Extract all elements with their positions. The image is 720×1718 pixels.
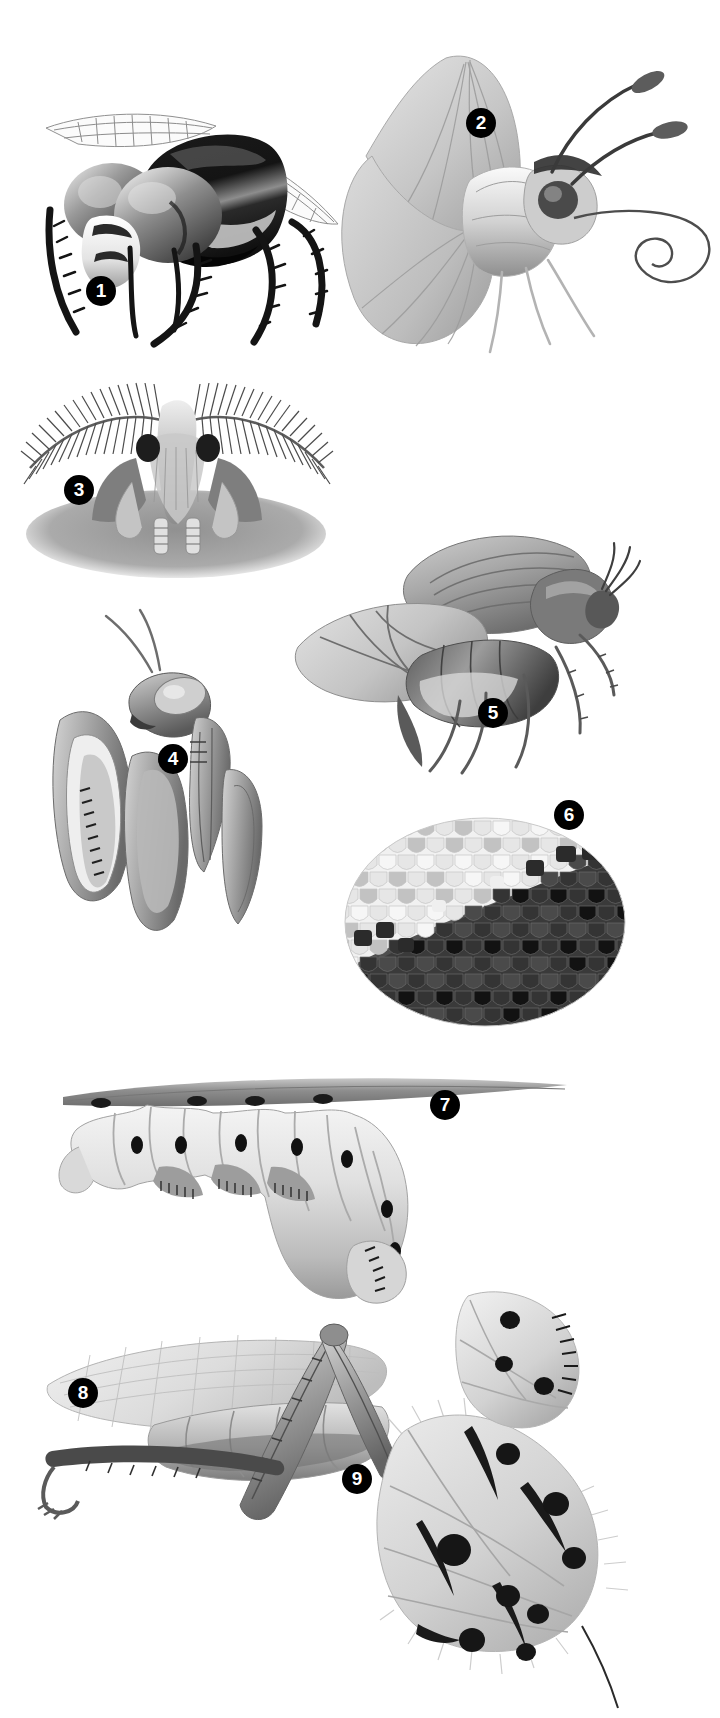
marker-1[interactable]: 1 — [86, 276, 116, 306]
moth-hindwing — [377, 1415, 598, 1661]
mantis-raptorial-femur — [53, 712, 132, 901]
moth-antenna-right — [186, 383, 333, 484]
grasshopper-tarsus — [43, 1467, 78, 1513]
figure-praying-mantis — [40, 610, 330, 930]
figure-moth-abdomen-tip — [440, 1290, 610, 1440]
moth-antenna-left — [21, 383, 168, 484]
mantis-raptorial-tibia — [125, 752, 189, 930]
marker-3[interactable]: 3 — [64, 475, 94, 505]
beetle-abdomen — [397, 640, 558, 767]
beetle-lamellate-antenna — [602, 543, 640, 595]
marker-7[interactable]: 7 — [430, 1090, 460, 1120]
moth-wing-bristle — [582, 1626, 618, 1708]
figure-fly-head — [20, 50, 360, 350]
marker-5[interactable]: 5 — [478, 698, 508, 728]
moth-eye-right — [196, 434, 220, 462]
figure-butterfly — [320, 40, 720, 370]
mantis-midleg — [222, 770, 262, 924]
illustration-plate: 1 2 3 4 5 6 7 8 9 — [0, 0, 720, 1718]
marker-6[interactable]: 6 — [554, 800, 584, 830]
marker-8[interactable]: 8 — [68, 1378, 98, 1408]
grasshopper-knee — [320, 1324, 348, 1346]
moth-eye-left — [136, 434, 160, 462]
scale-field — [330, 800, 643, 1050]
butterfly-antenna-clubs — [628, 66, 689, 141]
figure-wing-scales — [340, 810, 630, 1040]
marker-2[interactable]: 2 — [466, 108, 496, 138]
marker-9[interactable]: 9 — [342, 1464, 372, 1494]
figure-spotted-moth-wing — [360, 1400, 690, 1710]
marker-4[interactable]: 4 — [158, 744, 188, 774]
figure-beetle-in-flight — [280, 495, 620, 785]
mantis-antennae — [106, 610, 160, 672]
beetle-tarsal-spines — [568, 654, 618, 719]
